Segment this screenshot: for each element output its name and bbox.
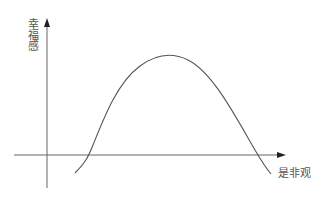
x-axis-arrow-icon: [277, 152, 286, 158]
x-axis-label: 是非观: [278, 164, 311, 180]
diagram-canvas: [0, 0, 324, 203]
diagram: 幸福感 是非观: [0, 0, 324, 203]
inverted-u-curve: [75, 55, 271, 174]
y-axis-label: 幸福感: [24, 18, 38, 51]
y-axis-arrow-icon: [44, 18, 50, 27]
